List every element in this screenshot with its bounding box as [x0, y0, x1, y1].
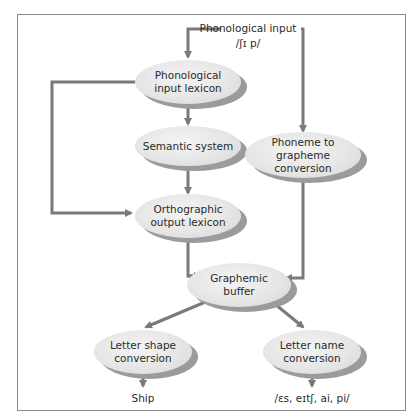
- phonological-input-phonetic: /ʃɪ p/: [228, 37, 268, 49]
- output-letter-names: /ɛs, eɪtʃ, ai, pi/: [262, 392, 362, 404]
- node-letter-name-conversion: Letter name conversion: [263, 330, 361, 374]
- node-phonological-input-lexicon: Phonological input lexicon: [135, 60, 241, 104]
- node-graphemic-buffer: Graphemic buffer: [187, 263, 291, 307]
- node-orthographic-output-lexicon: Orthographic output lexicon: [135, 194, 241, 238]
- node-letter-shape-conversion: Letter shape conversion: [94, 330, 192, 374]
- phonological-input-label: Phonological input: [198, 22, 298, 34]
- node-label: Phoneme to grapheme conversion: [247, 136, 359, 175]
- node-label: Semantic system: [143, 140, 234, 153]
- node-label: Letter shape conversion: [106, 339, 180, 365]
- arrow-pil-to-ool: [52, 82, 136, 213]
- node-semantic-system: Semantic system: [135, 126, 241, 166]
- node-label: Letter name conversion: [275, 339, 349, 365]
- node-label: Orthographic output lexicon: [145, 203, 231, 229]
- node-phoneme-to-grapheme-conversion: Phoneme to grapheme conversion: [245, 132, 361, 178]
- arrow-input-to-pgc: [301, 29, 303, 131]
- node-label: Graphemic buffer: [207, 272, 271, 298]
- output-written-word: Ship: [123, 392, 163, 404]
- node-label: Phonological input lexicon: [148, 69, 228, 95]
